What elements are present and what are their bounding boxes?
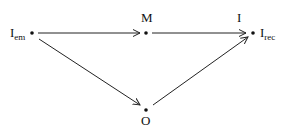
label-iem: Iem bbox=[10, 26, 25, 42]
label-irec: Irec bbox=[260, 26, 275, 42]
node-m-dot bbox=[144, 31, 148, 35]
edge-iem-to-o bbox=[39, 39, 140, 105]
label-o: O bbox=[141, 114, 150, 127]
edge-o-to-irec bbox=[153, 37, 248, 105]
node-iem-dot bbox=[30, 31, 34, 35]
label-iem-sub: em bbox=[14, 32, 25, 42]
label-i-top: I bbox=[237, 11, 241, 24]
node-o-dot bbox=[144, 108, 148, 112]
label-irec-sub: rec bbox=[264, 32, 275, 42]
label-m: M bbox=[141, 11, 153, 24]
node-irec-dot bbox=[251, 31, 255, 35]
